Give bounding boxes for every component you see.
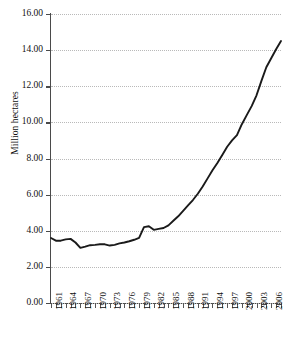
x-axis-tick-label: 1973 bbox=[113, 292, 122, 310]
x-axis-tick bbox=[124, 303, 125, 308]
x-axis-tick-label: 1976 bbox=[128, 292, 137, 310]
x-axis-tick-label: 2003 bbox=[260, 292, 269, 310]
x-axis-tick-label: 1985 bbox=[172, 292, 181, 310]
y-axis-tick-label: 2.00 bbox=[0, 262, 43, 272]
x-axis-tick-label: 1961 bbox=[55, 292, 64, 310]
x-axis-tick-label: 1967 bbox=[84, 292, 93, 310]
x-axis-tick-label: 1997 bbox=[231, 292, 240, 310]
x-axis-tick-label: 1982 bbox=[157, 292, 166, 310]
x-axis-tick-label: 1964 bbox=[69, 292, 78, 310]
x-axis-tick bbox=[257, 303, 258, 308]
x-axis-tick bbox=[242, 303, 243, 308]
chart-container: Million hectares 0.002.004.006.008.0010.… bbox=[0, 0, 287, 353]
x-axis-tick-label: 1991 bbox=[201, 292, 210, 310]
y-axis-tick-label: 4.00 bbox=[0, 226, 43, 236]
x-axis-tick bbox=[95, 303, 96, 308]
x-axis-tick-label: 1988 bbox=[187, 292, 196, 310]
x-axis-tick bbox=[168, 303, 169, 308]
x-axis-tick bbox=[110, 303, 111, 308]
y-axis-tick-label: 12.00 bbox=[0, 81, 43, 91]
x-axis-tick-label: 2006 bbox=[275, 292, 284, 310]
x-axis-tick bbox=[212, 303, 213, 308]
y-axis-tick-label: 6.00 bbox=[0, 190, 43, 200]
data-series-line bbox=[51, 14, 281, 303]
x-axis-tick bbox=[51, 303, 52, 308]
x-axis-tick bbox=[66, 303, 67, 308]
plot-area bbox=[51, 14, 281, 303]
x-axis-tick bbox=[154, 303, 155, 308]
x-axis-tick bbox=[198, 303, 199, 308]
y-axis-tick-label: 8.00 bbox=[0, 154, 43, 164]
y-axis-tick-label: 0.00 bbox=[0, 298, 43, 308]
x-axis-tick-label: 1994 bbox=[216, 292, 225, 310]
x-axis-tick bbox=[139, 303, 140, 308]
x-axis-tick-label: 1979 bbox=[143, 292, 152, 310]
y-axis-tick-label: 14.00 bbox=[0, 45, 43, 55]
x-axis-tick bbox=[271, 303, 272, 308]
x-axis-tick bbox=[227, 303, 228, 308]
y-axis-tick-label: 10.00 bbox=[0, 117, 43, 127]
x-axis-tick bbox=[80, 303, 81, 308]
x-axis-tick-label: 2000 bbox=[245, 292, 254, 310]
x-axis-tick-label: 1970 bbox=[99, 292, 108, 310]
x-axis-tick bbox=[183, 303, 184, 308]
y-axis-tick-label: 16.00 bbox=[0, 9, 43, 19]
